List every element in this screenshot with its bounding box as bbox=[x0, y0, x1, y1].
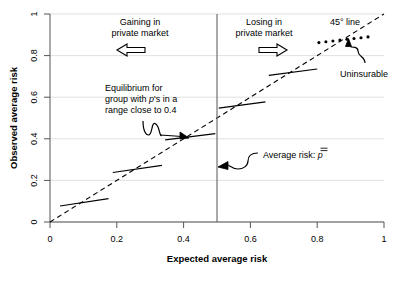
equilibrium-leader-squiggle bbox=[143, 121, 162, 136]
uninsurable-annotation: Uninsurable bbox=[340, 39, 388, 80]
equilibrium-line-2-part-1: group with bbox=[105, 94, 149, 104]
equilibrium-annotation: Equilibrium for group with p's in a rang… bbox=[105, 83, 189, 139]
average-risk-arrowhead-icon bbox=[218, 162, 228, 170]
dot-point bbox=[366, 35, 369, 38]
segment-2 bbox=[113, 165, 162, 172]
uninsurable-leader-squiggle bbox=[351, 47, 366, 63]
dot-point bbox=[359, 36, 362, 39]
x-tick-label-0: 0 bbox=[47, 234, 52, 244]
forty-five-degree-label: 45° line bbox=[330, 17, 360, 27]
average-risk-symbol-p: p bbox=[317, 150, 323, 160]
equilibrium-line-1: Equilibrium for bbox=[105, 83, 163, 93]
losing-annotation: Losing in private market bbox=[235, 17, 293, 56]
equilibrium-leader-tail bbox=[160, 135, 182, 137]
x-axis-title: Expected average risk bbox=[167, 253, 268, 264]
average-risk-annotation: Average risk: p bbox=[218, 148, 328, 169]
dot-point bbox=[338, 39, 341, 42]
x-tick-label-0-6: 0.6 bbox=[244, 234, 257, 244]
losing-annotation-line-2: private market bbox=[235, 28, 293, 38]
y-tick-label-1: 1 bbox=[29, 11, 39, 16]
y-tick-label-0-4: 0.4 bbox=[29, 133, 39, 146]
equilibrium-line-2-part-2: 's in a bbox=[154, 94, 177, 104]
x-tick-labels: 0 0.2 0.4 0.6 0.8 1 bbox=[47, 234, 386, 244]
gaining-annotation: Gaining in private market bbox=[111, 17, 169, 56]
x-tick-marks bbox=[50, 222, 384, 228]
y-tick-label-0: 0 bbox=[29, 219, 39, 224]
y-tick-label-0-6: 0.6 bbox=[29, 91, 39, 104]
average-risk-label: Average risk: p bbox=[263, 150, 323, 160]
y-tick-label-0-2: 0.2 bbox=[29, 174, 39, 187]
x-tick-label-0-8: 0.8 bbox=[311, 234, 324, 244]
dot-point bbox=[317, 41, 320, 44]
segment-1 bbox=[60, 199, 109, 206]
average-risk-label-prefix: Average risk: bbox=[263, 150, 318, 160]
chart-svg: 1 0.8 0.6 0.4 0.2 0 0 0.2 0.4 0.6 0.8 1 … bbox=[0, 0, 411, 289]
chart-figure: 1 0.8 0.6 0.4 0.2 0 0 0.2 0.4 0.6 0.8 1 … bbox=[0, 0, 411, 289]
gaining-annotation-line-2: private market bbox=[111, 28, 169, 38]
arrow-left-icon bbox=[117, 44, 145, 56]
x-tick-label-1: 1 bbox=[381, 234, 386, 244]
uninsurable-label: Uninsurable bbox=[340, 69, 388, 79]
y-axis-title: Observed average risk bbox=[8, 66, 19, 169]
segment-5 bbox=[269, 69, 317, 75]
y-tick-marks bbox=[44, 14, 50, 222]
x-tick-label-0-2: 0.2 bbox=[111, 234, 124, 244]
uninsurable-dots bbox=[317, 35, 369, 44]
arrow-right-icon bbox=[259, 44, 287, 56]
equilibrium-line-2: group with p's in a bbox=[105, 94, 177, 104]
gaining-annotation-line-1: Gaining in bbox=[120, 17, 161, 27]
average-risk-leader-squiggle bbox=[228, 153, 258, 169]
y-tick-label-0-8: 0.8 bbox=[29, 49, 39, 62]
dot-point bbox=[352, 37, 355, 40]
dot-point bbox=[324, 40, 327, 43]
equilibrium-line-3: range close to 0.4 bbox=[105, 105, 177, 115]
y-tick-labels: 1 0.8 0.6 0.4 0.2 0 bbox=[29, 11, 39, 224]
losing-annotation-line-1: Losing in bbox=[246, 17, 282, 27]
x-tick-label-0-4: 0.4 bbox=[177, 234, 190, 244]
dot-point bbox=[331, 39, 334, 42]
equilibrium-arrowhead-icon bbox=[180, 132, 189, 139]
segment-4 bbox=[219, 102, 266, 108]
